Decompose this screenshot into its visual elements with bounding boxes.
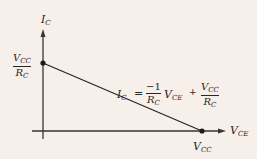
- x-axis-arrow-icon: [218, 129, 226, 134]
- equation-variable: VCE: [164, 89, 182, 102]
- x-intercept-point: [199, 128, 204, 133]
- load-line-equation: IC = −1 RC VCE + VCC RC: [117, 80, 227, 108]
- x-axis-label: VCE: [230, 125, 248, 138]
- y-axis-arrow-icon: [41, 29, 46, 37]
- y-intercept-label: VCC RC: [13, 53, 31, 80]
- equation-lhs: IC: [117, 89, 127, 102]
- equation-constant: VCC RC: [201, 82, 219, 109]
- equation-plus: +: [189, 88, 197, 97]
- y-axis-label: IC: [41, 14, 51, 27]
- x-intercept-label: VCC: [193, 141, 212, 154]
- equation-coefficient: −1 RC: [146, 82, 161, 107]
- y-intercept-point: [40, 60, 45, 65]
- equation-equals: =: [134, 88, 143, 99]
